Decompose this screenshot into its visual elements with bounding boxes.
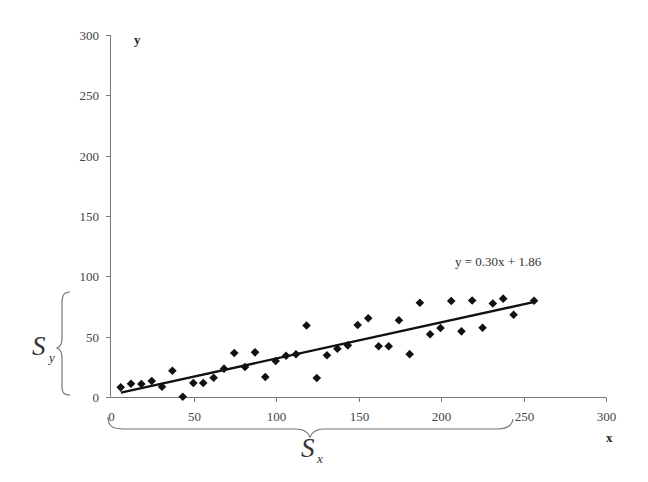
y-spread-brace (57, 292, 70, 395)
x-axis: 050100150200250300 (108, 398, 616, 425)
data-point-diamond (282, 351, 291, 360)
data-point-diamond (384, 342, 393, 351)
x-axis-title: x (606, 430, 613, 445)
data-point-diamond (178, 392, 187, 401)
data-point-diamond (499, 294, 508, 303)
x-tick-label: 300 (597, 409, 617, 424)
data-point-diamond (353, 321, 362, 330)
x-tick-label: 250 (515, 409, 535, 424)
data-point-diamond (189, 379, 198, 388)
x-axis-ticks: 050100150200250300 (108, 398, 616, 425)
scatter-chart: 050100150200250300 050100150200250300 y … (0, 0, 648, 482)
data-point-diamond (116, 383, 125, 392)
data-point-diamond (312, 374, 321, 383)
data-point-diamond (478, 323, 487, 332)
y-tick-label: 300 (80, 28, 100, 43)
data-point-diamond (395, 316, 404, 325)
y-tick-label: 250 (80, 88, 100, 103)
data-point-diamond (323, 351, 332, 360)
x-tick-label: 50 (188, 409, 201, 424)
data-point-diamond (436, 324, 445, 333)
y-tick-label: 200 (80, 149, 100, 164)
x-tick-label: 0 (108, 409, 115, 424)
data-point-diamond (261, 373, 270, 382)
data-point-diamond (251, 348, 260, 357)
y-axis-ticks: 050100150200250300 (80, 28, 111, 405)
y-tick-label: 0 (93, 390, 100, 405)
sx-label: S (301, 433, 315, 463)
sy-subscript: y (47, 350, 55, 365)
y-tick-label: 50 (86, 330, 99, 345)
data-point-diamond (127, 379, 136, 388)
data-point-diamond (405, 350, 414, 359)
data-point-diamond (468, 296, 477, 305)
y-axis-title: y (134, 32, 141, 47)
data-point-diamond (364, 314, 373, 323)
x-tick-label: 150 (350, 409, 370, 424)
sx-subscript: x (316, 451, 323, 466)
x-tick-label: 200 (432, 409, 452, 424)
trendline-equation: y = 0.30x + 1.86 (455, 254, 542, 269)
sy-label: S (32, 331, 46, 361)
data-point-diamond (292, 350, 301, 359)
data-point-diamond (199, 379, 208, 388)
y-tick-label: 100 (80, 269, 100, 284)
y-tick-label: 150 (80, 209, 100, 224)
data-point-diamond (447, 297, 456, 306)
trendline (121, 302, 534, 393)
data-point-diamond (230, 349, 239, 358)
data-point-diamond (168, 366, 177, 375)
data-point-diamond (489, 299, 498, 308)
data-point-diamond (509, 311, 518, 320)
data-point-diamond (416, 298, 425, 307)
data-point-diamond (209, 373, 218, 382)
y-axis: 050100150200250300 (80, 28, 111, 405)
data-point-diamond (374, 342, 383, 351)
data-point-diamond (302, 321, 311, 330)
data-point-diamond (426, 330, 435, 339)
x-tick-label: 100 (267, 409, 287, 424)
data-point-diamond (457, 327, 466, 336)
